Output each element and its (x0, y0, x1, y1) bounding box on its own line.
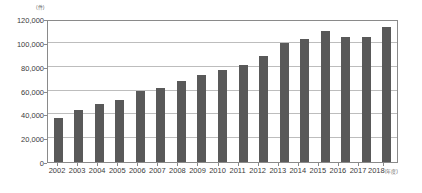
y-axis-tick (44, 163, 47, 164)
x-axis-tick (278, 163, 279, 166)
x-axis-tick (258, 163, 259, 166)
x-axis-tick (338, 163, 339, 166)
x-axis-tick (318, 163, 319, 166)
bar-slot (377, 21, 398, 162)
x-axis-tick-label: 2002 (49, 166, 66, 175)
bar[interactable] (177, 81, 186, 162)
bar-slot (315, 21, 336, 162)
bar[interactable] (280, 43, 289, 162)
bar[interactable] (239, 65, 248, 162)
x-axis-label-slot: 2016 (328, 166, 348, 182)
x-axis-label-slot: 2004 (87, 166, 107, 182)
x-axis-label-slot: 2002 (47, 166, 67, 182)
x-axis-label-slot: 2003 (67, 166, 87, 182)
bar-slot (233, 21, 254, 162)
x-axis-label-slot: 2013 (268, 166, 288, 182)
bar[interactable] (136, 91, 145, 163)
y-axis-labels: 020,00040,00060,00080,000100,000120,000 (0, 20, 44, 163)
bar-slot (335, 21, 356, 162)
bar[interactable] (362, 37, 371, 162)
x-axis-tick-label: 2017 (350, 166, 367, 175)
x-axis-tick (383, 163, 384, 166)
bar[interactable] (54, 118, 63, 162)
bar-slot (192, 21, 213, 162)
bar-slot (356, 21, 377, 162)
x-axis-tick (298, 163, 299, 166)
x-axis-tick (157, 163, 158, 166)
y-axis-tick-label: 100,000 (17, 39, 44, 48)
x-axis-tick-label: 2014 (289, 166, 306, 175)
x-axis-tick (197, 163, 198, 166)
x-axis-label-slot: 2017 (348, 166, 368, 182)
plot-area (47, 20, 398, 163)
x-axis-tick-label: 2013 (269, 166, 286, 175)
x-axis-tick-label: 2004 (89, 166, 106, 175)
x-axis-label-slot: 2018(年度) (368, 166, 398, 182)
bar[interactable] (156, 88, 165, 162)
x-axis-tick-label: 2010 (209, 166, 226, 175)
x-axis-unit-label: (年度) (385, 167, 398, 174)
x-axis-tick (97, 163, 98, 166)
bar-slot (69, 21, 90, 162)
bar[interactable] (382, 27, 391, 162)
x-axis-tick (177, 163, 178, 166)
bar-slot (253, 21, 274, 162)
x-axis-tick (238, 163, 239, 166)
bar[interactable] (218, 70, 227, 162)
y-axis-tick-label: 120,000 (17, 16, 44, 25)
x-axis-label-slot: 2007 (147, 166, 167, 182)
x-axis-tick-label: 2015 (310, 166, 327, 175)
y-axis-tick-label: 80,000 (21, 63, 44, 72)
x-axis-tick (137, 163, 138, 166)
bar[interactable] (115, 100, 124, 162)
bar-slot (89, 21, 110, 162)
bar[interactable] (74, 110, 83, 162)
bar-slot (48, 21, 69, 162)
x-axis-tick (117, 163, 118, 166)
x-axis-label-slot: 2005 (107, 166, 127, 182)
x-axis-tick (218, 163, 219, 166)
x-axis-label-slot: 2006 (127, 166, 147, 182)
bar-slot (294, 21, 315, 162)
x-axis-tick-label: 2005 (109, 166, 126, 175)
x-axis-label-slot: 2014 (288, 166, 308, 182)
x-axis-tick-label: 2007 (149, 166, 166, 175)
bar-slot (151, 21, 172, 162)
x-axis-tick-label: 2011 (230, 166, 246, 175)
bar[interactable] (95, 104, 104, 162)
bar-slot (274, 21, 295, 162)
bar[interactable] (259, 56, 268, 162)
x-axis-tick-label: 2016 (330, 166, 347, 175)
x-axis-label-slot: 2011 (228, 166, 248, 182)
y-axis-tick-label: 40,000 (21, 111, 44, 120)
x-axis-tick-label: 2006 (129, 166, 146, 175)
bar-slot (110, 21, 131, 162)
x-axis-tick (57, 163, 58, 166)
x-axis-tick-label: 2008 (169, 166, 186, 175)
x-axis-label-slot: 2008 (167, 166, 187, 182)
x-axis-label-slot: 2012 (248, 166, 268, 182)
y-axis-tick-label: 20,000 (21, 135, 44, 144)
x-axis-tick-label: 2003 (69, 166, 86, 175)
bar[interactable] (341, 37, 350, 162)
x-axis-labels: 2002200320042005200620072008200920102011… (47, 166, 398, 182)
x-axis-label-slot: 2010 (208, 166, 228, 182)
bar-series (48, 21, 397, 162)
bar-slot (212, 21, 233, 162)
bar-chart: (件) 020,00040,00060,00080,000100,000120,… (0, 0, 422, 193)
x-axis-tick-label: 2012 (249, 166, 266, 175)
x-axis-tick (358, 163, 359, 166)
x-axis-tick (77, 163, 78, 166)
x-axis-tick-label: 2009 (189, 166, 206, 175)
x-axis-label-slot: 2015 (308, 166, 328, 182)
bar-slot (171, 21, 192, 162)
bar[interactable] (197, 75, 206, 162)
bar[interactable] (300, 39, 309, 162)
y-axis-unit-label: (件) (36, 3, 44, 10)
x-axis-tick-label: 2018 (368, 166, 385, 175)
x-axis-label-slot: 2009 (187, 166, 207, 182)
bar[interactable] (321, 31, 330, 162)
y-axis-tick-label: 60,000 (21, 87, 44, 96)
bar-slot (130, 21, 151, 162)
